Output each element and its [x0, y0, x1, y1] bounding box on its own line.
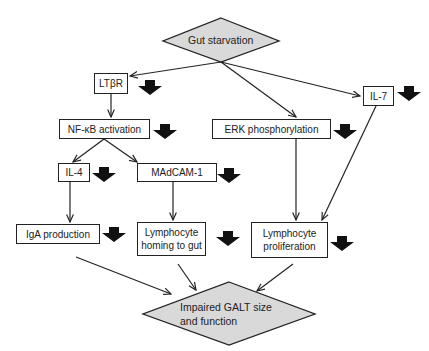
edge-homing-end — [178, 264, 196, 290]
down-arrow-icon — [330, 236, 354, 251]
edge-start-il7 — [221, 62, 360, 96]
node-homing-line1: Lymphocyte — [145, 226, 199, 239]
edge-start-erk — [221, 62, 296, 117]
node-il7-label: IL-7 — [370, 90, 387, 103]
down-arrow-icon — [153, 124, 177, 139]
node-il4-label: IL-4 — [65, 166, 82, 179]
node-il4: IL-4 — [58, 163, 90, 182]
down-arrow-icon — [217, 168, 241, 183]
node-nfkb: NF-κB activation — [59, 119, 150, 139]
node-madcam-label: MAdCAM-1 — [151, 166, 203, 179]
node-prolif: Lymphocyte proliferation — [251, 222, 328, 258]
down-arrow-icon — [92, 167, 116, 182]
node-ltbr-label: LTβR — [99, 77, 123, 90]
node-nfkb-label: NF-κB activation — [68, 123, 141, 136]
down-arrow-icon — [102, 227, 126, 242]
edge-prolif-end — [257, 264, 293, 291]
node-erk: ERK phosphorylation — [212, 119, 331, 139]
impaired-galt-label: Impaired GALT size and function — [180, 300, 272, 328]
edge-nfkb-il4 — [73, 139, 104, 162]
node-ltbr: LTβR — [94, 73, 128, 94]
node-madcam: MAdCAM-1 — [137, 163, 217, 182]
node-homing: Lymphocyte homing to gut — [137, 222, 206, 256]
node-iga: IgA production — [16, 224, 100, 244]
edge-iga-end — [76, 257, 171, 294]
gut-starvation-label: Gut starvation — [188, 33, 253, 47]
node-erk-label: ERK phosphorylation — [225, 123, 319, 136]
impaired-galt-line1: Impaired GALT size — [180, 300, 272, 314]
edge-start-ltbr — [130, 62, 221, 76]
edge-nfkb-madcam — [104, 139, 137, 162]
down-arrow-icon — [138, 80, 162, 95]
node-iga-label: IgA production — [26, 228, 90, 241]
down-arrow-icon — [397, 86, 421, 101]
node-homing-line2: homing to gut — [141, 239, 202, 252]
node-prolif-line1: Lymphocyte — [263, 227, 317, 240]
down-arrow-icon — [333, 124, 357, 139]
node-il7: IL-7 — [363, 86, 394, 106]
impaired-galt-line2: and function — [180, 314, 272, 328]
node-prolif-line2: proliferation — [263, 240, 315, 253]
down-arrow-icon — [216, 231, 240, 246]
